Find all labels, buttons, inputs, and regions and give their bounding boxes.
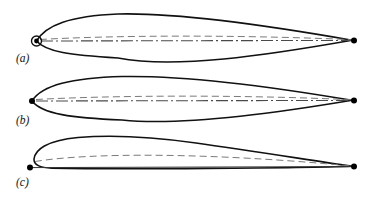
leading-edge-dot-c <box>27 165 33 171</box>
airfoil-panel-b: (b) <box>16 76 357 127</box>
airfoil-outline-c <box>34 136 352 168</box>
trailing-edge-dot-c <box>351 164 357 170</box>
camber-line-a <box>40 36 351 39</box>
airfoil-panel-c: (c) <box>16 136 357 189</box>
chord-line-a <box>41 40 351 41</box>
leading-edge-dot-a <box>34 39 39 44</box>
airfoil-panel-a: (a) <box>16 14 357 65</box>
camber-line-b <box>36 96 351 100</box>
trailing-edge-dot-a <box>351 37 357 43</box>
panel-label-b: (b) <box>16 114 30 127</box>
figure-canvas: (a) (b) (c) <box>0 0 378 201</box>
panel-label-c: (c) <box>16 176 29 189</box>
panel-label-a: (a) <box>16 52 30 65</box>
trailing-edge-dot-b <box>351 97 357 103</box>
camber-line-c <box>35 155 351 166</box>
leading-edge-dot-b <box>29 98 35 104</box>
chord-line-b <box>36 100 351 101</box>
airfoil-figure: (a) (b) (c) <box>0 0 378 201</box>
airfoil-outline-b <box>32 76 352 121</box>
